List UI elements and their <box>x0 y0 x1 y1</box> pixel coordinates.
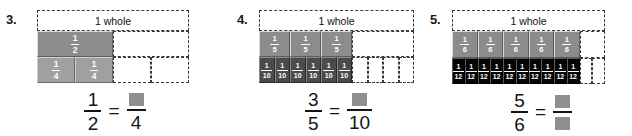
equals-sign: = <box>535 102 546 121</box>
fraction-cell-tenth-shaded[interactable]: 1 10 <box>259 57 275 83</box>
fraction-right-answer <box>553 93 572 132</box>
fraction-cell-twelfth-shaded[interactable]: 1 12 <box>490 58 503 84</box>
answer-blank-numerator[interactable] <box>555 95 570 108</box>
fraction-cell-sixth-shaded[interactable]: 1 6 <box>554 31 580 58</box>
cell-fraction-label: 1 10 <box>277 62 288 79</box>
cell-fraction-label: 1 4 <box>90 60 98 80</box>
one-whole-bar: 1 whole <box>37 10 189 31</box>
problem-number: 3. <box>6 12 16 27</box>
problem-number: 4. <box>237 12 247 27</box>
fraction-right-answer: 4 <box>127 91 146 132</box>
cell-fraction-label: 1 4 <box>52 60 60 80</box>
fraction-left: 1 2 <box>84 90 101 133</box>
cell-fraction-label: 1 10 <box>261 62 272 79</box>
cell-fraction-label: 1 6 <box>511 36 520 54</box>
fraction-cell-sixth-shaded[interactable]: 1 6 <box>503 31 529 58</box>
fraction-left: 5 6 <box>511 91 528 134</box>
fraction-cell-half-shaded[interactable]: 1 2 <box>37 31 113 57</box>
cell-fraction-label: 1 6 <box>460 36 469 54</box>
fraction-cell-fifth-empty[interactable] <box>352 31 414 57</box>
one-whole-label: 1 whole <box>95 15 131 27</box>
fraction-cell-twelfth-shaded[interactable]: 1 12 <box>465 58 478 84</box>
fraction-cell-tenth-empty[interactable] <box>368 57 384 83</box>
cell-fraction-label: 1 10 <box>339 62 350 79</box>
problem-number: 5. <box>430 12 440 27</box>
cell-fraction-label: 1 6 <box>562 36 571 54</box>
fraction-cell-fourth-empty[interactable] <box>113 57 151 83</box>
cell-fraction-label: 1 10 <box>308 62 319 79</box>
fraction-cell-fourth-shaded[interactable]: 1 4 <box>75 57 113 83</box>
fraction-cell-tenth-shaded[interactable]: 1 10 <box>337 57 353 83</box>
fraction-cell-tenth-shaded[interactable]: 1 10 <box>306 57 322 83</box>
equals-sign: = <box>108 101 119 120</box>
problem-5: 5. 1 whole 1 6 1 6 1 <box>422 0 632 136</box>
fraction-cell-sixth-empty[interactable] <box>580 31 606 58</box>
answer-blank-denominator[interactable] <box>555 117 570 130</box>
cell-fraction-label: 1 12 <box>453 63 464 80</box>
cell-fraction-label: 1 2 <box>71 34 79 54</box>
problem-3: 3. 1 whole 1 2 1 4 <box>0 0 211 136</box>
cell-fraction-label: 1 12 <box>555 63 566 80</box>
fraction-cell-tenth-empty[interactable] <box>352 57 368 83</box>
fraction-cell-fourth-empty[interactable] <box>151 57 189 83</box>
cell-fraction-label: 1 12 <box>529 63 540 80</box>
cell-fraction-label: 1 12 <box>504 63 515 80</box>
fraction-cell-fourth-shaded[interactable]: 1 4 <box>37 57 75 83</box>
fraction-cell-tenth-shaded[interactable]: 1 10 <box>290 57 306 83</box>
cell-fraction-label: 1 12 <box>466 63 477 80</box>
fraction-cell-twelfth-shaded[interactable]: 1 12 <box>554 58 567 84</box>
fraction-worksheet: 3. 1 whole 1 2 1 4 <box>0 0 632 136</box>
cell-fraction-label: 1 5 <box>332 35 341 53</box>
fraction-left: 3 5 <box>305 90 322 133</box>
cell-fraction-label: 1 12 <box>491 63 502 80</box>
cell-fraction-label: 1 6 <box>486 36 495 54</box>
one-whole-bar: 1 whole <box>452 10 605 31</box>
fraction-cell-half-empty[interactable] <box>113 31 189 57</box>
answer-blank-numerator[interactable] <box>129 93 144 106</box>
equals-sign: = <box>329 101 340 120</box>
fraction-cell-twelfth-empty[interactable] <box>580 58 593 84</box>
equation-4: 3 5 = 10 <box>276 88 401 134</box>
cell-fraction-label: 1 10 <box>323 62 334 79</box>
fraction-cell-twelfth-shaded[interactable]: 1 12 <box>541 58 554 84</box>
cell-fraction-label: 1 5 <box>270 35 279 53</box>
fraction-cell-tenth-empty[interactable] <box>399 57 415 83</box>
sixths-row: 1 6 1 6 1 6 <box>452 31 605 58</box>
fraction-cell-twelfth-empty[interactable] <box>592 58 605 84</box>
fraction-cell-twelfth-shaded[interactable]: 1 12 <box>452 58 465 84</box>
cell-fraction-label: 1 12 <box>517 63 528 80</box>
cell-fraction-label: 1 5 <box>301 35 310 53</box>
fraction-cell-tenth-shaded[interactable]: 1 10 <box>321 57 337 83</box>
fraction-cell-tenth-empty[interactable] <box>383 57 399 83</box>
twelfths-row: 1 12 1 12 1 12 <box>452 58 605 84</box>
fifths-row: 1 5 1 5 1 5 <box>259 31 414 57</box>
fraction-cell-twelfth-shaded[interactable]: 1 12 <box>567 58 580 84</box>
answer-blank-numerator[interactable] <box>352 93 367 106</box>
fraction-cell-twelfth-shaded[interactable]: 1 12 <box>529 58 542 84</box>
one-whole-label: 1 whole <box>510 15 546 27</box>
fraction-right-answer: 10 <box>347 91 372 132</box>
problem-4: 4. 1 whole 1 5 1 5 1 <box>211 0 422 136</box>
one-whole-bar: 1 whole <box>259 10 414 31</box>
fraction-cell-sixth-shaded[interactable]: 1 6 <box>529 31 555 58</box>
cell-fraction-label: 1 6 <box>537 36 546 54</box>
fraction-cell-twelfth-shaded[interactable]: 1 12 <box>503 58 516 84</box>
cell-fraction-label: 1 12 <box>542 63 553 80</box>
fraction-cell-sixth-shaded[interactable]: 1 6 <box>452 31 478 58</box>
fraction-cell-fifth-shaded[interactable]: 1 5 <box>290 31 321 57</box>
fourths-row: 1 4 1 4 <box>37 57 189 83</box>
halves-row: 1 2 <box>37 31 189 57</box>
cell-fraction-label: 1 10 <box>292 62 303 79</box>
tenths-row: 1 10 1 10 1 10 <box>259 57 414 83</box>
fraction-cell-twelfth-shaded[interactable]: 1 12 <box>478 58 491 84</box>
fraction-cell-twelfth-shaded[interactable]: 1 12 <box>516 58 529 84</box>
fraction-cell-sixth-shaded[interactable]: 1 6 <box>478 31 504 58</box>
fraction-cell-fifth-shaded[interactable]: 1 5 <box>259 31 290 57</box>
cell-fraction-label: 1 12 <box>568 63 579 80</box>
fraction-cell-fifth-shaded[interactable]: 1 5 <box>321 31 352 57</box>
equation-3: 1 2 = 4 <box>55 88 175 134</box>
cell-fraction-label: 1 12 <box>478 63 489 80</box>
one-whole-label: 1 whole <box>318 15 354 27</box>
fraction-cell-tenth-shaded[interactable]: 1 10 <box>275 57 291 83</box>
equation-5: 5 6 = <box>484 89 599 135</box>
